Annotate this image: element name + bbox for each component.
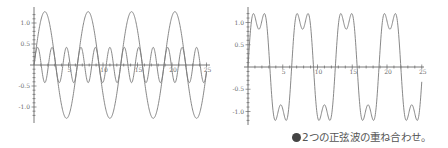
chart-right-sum: 5101520251.00.5-0.5-1.0 [224, 0, 448, 130]
x-tick-label: 25 [204, 66, 212, 73]
y-tick-label: -0.5 [18, 82, 30, 89]
x-tick-label: 20 [384, 68, 392, 75]
y-tick-label: 0.5 [234, 41, 244, 48]
bullet-icon [292, 133, 301, 142]
x-tick-label: 10 [100, 66, 108, 73]
chart-left-components: 5101520251.00.5-0.5-1.0 [0, 0, 224, 130]
x-tick-label: 25 [419, 68, 427, 75]
x-tick-label: 15 [135, 66, 143, 73]
y-tick-label: -1.0 [232, 108, 244, 115]
x-tick-label: 20 [169, 66, 177, 73]
y-tick-label: 0.5 [20, 40, 30, 47]
y-tick-label: -1.0 [18, 103, 30, 110]
caption-text: 2つの正弦波の重ね合わせ。 [302, 131, 431, 143]
x-tick-label: 10 [315, 68, 323, 75]
y-tick-label: 1.0 [20, 19, 30, 26]
y-tick-label: -0.5 [232, 85, 244, 92]
chart-right-svg: 5101520251.00.5-0.5-1.0 [224, 0, 448, 130]
figure-caption: 2つの正弦波の重ね合わせ。 [292, 129, 431, 144]
chart-left-svg: 5101520251.00.5-0.5-1.0 [0, 0, 224, 130]
x-tick-label: 5 [282, 68, 286, 75]
x-tick-label: 15 [349, 68, 357, 75]
y-tick-label: 1.0 [234, 19, 244, 26]
